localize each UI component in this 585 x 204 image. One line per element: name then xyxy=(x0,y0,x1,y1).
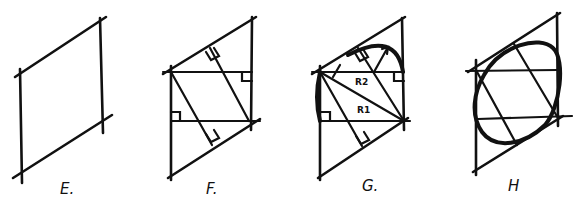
panel-label-f: F. xyxy=(206,180,217,198)
panel-h: H xyxy=(466,13,572,195)
panel-e: E. xyxy=(13,17,112,198)
radius-label-r2: R2 xyxy=(355,77,368,87)
radius-label-r1: R1 xyxy=(357,105,370,115)
panel-label-e: E. xyxy=(60,180,74,198)
panel-label-g: G. xyxy=(362,177,378,195)
panel-g: R2 R1 G. xyxy=(312,17,410,195)
panel-label-h: H xyxy=(508,177,519,195)
panel-f: F. xyxy=(163,17,260,198)
diagram-canvas: E. F. xyxy=(0,0,585,204)
